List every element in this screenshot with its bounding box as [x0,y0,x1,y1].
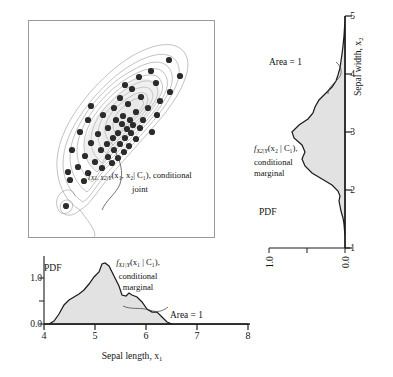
bottom-marginal-y-ticklabels: 1.0 0.0 [0,252,42,330]
bottom-axis-title-text: Sepal length, x [102,350,159,361]
right-axis-title-subscript: 2 [357,38,364,41]
right-ytick-5: 5 [350,11,355,21]
bottom-fn-line3: marginal [123,282,153,292]
bottom-fn-subscript: X1|Y [119,262,130,268]
joint-plot-svg [28,20,215,238]
right-ytick-3: 3 [350,127,355,137]
bottom-marginal-axis-title: Sepal length, x1 [10,350,254,362]
bottom-ytick-1-0: 1.0 [30,273,42,283]
bottom-axis-title-subscript: 1 [159,355,162,362]
bottom-fn-line2: conditional [119,271,158,281]
joint-annotation-line2: joint [60,184,220,196]
bottom-xtick-5: 5 [93,330,98,341]
right-marginal-area-label: Area = 1 [269,57,302,67]
right-marginal-x-ticklabels: 1.0 0.0 [255,240,355,272]
bottom-ytick-0-0: 0.0 [30,319,42,329]
figure-canvas: fX1, X2|Y(x₁, x₂| C₁), conditional joint… [0,0,393,377]
right-fn-args: (x₂ | C₁), [268,143,298,153]
bottom-marginal-pdf-label: PDF [44,262,62,273]
bottom-fn-args: (x₁ | C₁), [130,257,160,267]
bottom-xtick-8: 8 [246,330,251,341]
bottom-marginal-area-label: Area = 1 [170,310,203,320]
bottom-marginal-x-ticklabels: 4 5 6 7 8 [10,330,254,346]
right-ytick-2: 2 [350,185,355,195]
joint-fn-args: (x₁, x₂| C₁), conditional [111,170,191,180]
right-axis-title-text: Sepal width, x [352,41,363,96]
joint-fn-subscript: X1, X2|Y [91,175,112,181]
bottom-xtick-7: 7 [195,330,200,341]
right-marginal-pdf-label: PDF [259,206,277,217]
right-marginal-axis-title: Sepal width, x2 [352,38,364,96]
right-fn-line3: marginal [254,168,284,178]
right-fn-line2: conditional [254,157,293,167]
right-fn-subscript: X2|Y [256,148,267,154]
bottom-xtick-4: 4 [42,330,47,341]
bottom-xtick-6: 6 [144,330,149,341]
bottom-marginal-function-label: fX1|Y(x₁ | C₁), conditional marginal [96,257,180,293]
right-marginal-function-label: fX2|Y(x₂ | C₁), conditional marginal [254,143,330,179]
right-marginal-y-ticklabels: 5 4 3 2 1 [300,8,355,256]
right-xtick-1-0: 1.0 [265,256,275,268]
right-xtick-0-0: 0.0 [341,256,351,268]
joint-annotation: fX1, X2|Y(x₁, x₂| C₁), conditional joint [60,170,220,196]
